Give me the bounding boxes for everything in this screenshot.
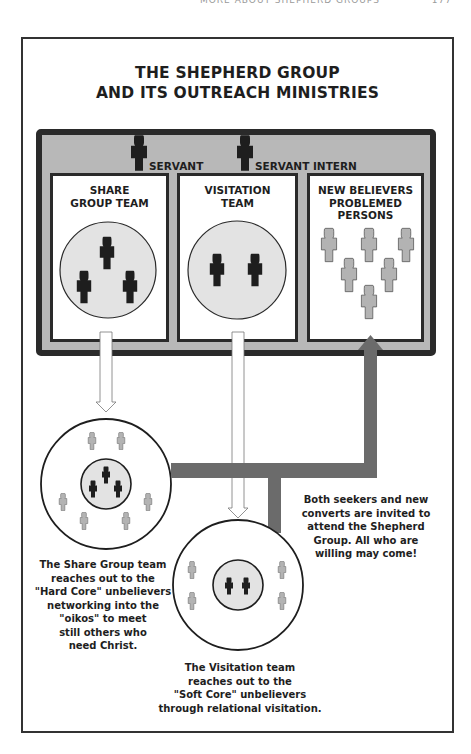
caption-line: "Hard Core" unbelievers bbox=[28, 585, 178, 599]
caption-line: need Christ. bbox=[28, 639, 178, 653]
caption-line: still others who bbox=[28, 626, 178, 640]
caption-line: The Share Group team bbox=[28, 558, 178, 572]
servant-icon bbox=[131, 135, 147, 171]
share-group-outreach-arrow bbox=[96, 332, 116, 412]
caption-line: attend the Shepherd bbox=[296, 520, 436, 534]
hard-core-outreach-circle bbox=[41, 419, 171, 549]
caption-line: The Visitation team bbox=[150, 661, 330, 675]
caption-line: reaches out to the bbox=[28, 572, 178, 586]
share-group-team-circle bbox=[60, 222, 156, 318]
servant-intern-icon bbox=[237, 135, 253, 171]
caption-line: networking into the bbox=[28, 599, 178, 613]
caption-line: willing may come! bbox=[296, 547, 436, 561]
soft-core-outreach-circle bbox=[173, 520, 303, 650]
visitation-caption: The Visitation team reaches out to the "… bbox=[150, 661, 330, 715]
new-believer-icons bbox=[321, 228, 413, 318]
caption-line: converts are invited to bbox=[296, 507, 436, 521]
caption-line: "oikos" to meet bbox=[28, 612, 178, 626]
share-group-caption: The Share Group team reaches out to the … bbox=[28, 558, 178, 653]
caption-line: through relational visitation. bbox=[150, 702, 330, 716]
caption-line: Group. All who are bbox=[296, 534, 436, 548]
caption-line: reaches out to the bbox=[150, 675, 330, 689]
invitation-note: Both seekers and new converts are invite… bbox=[296, 493, 436, 561]
caption-line: Both seekers and new bbox=[296, 493, 436, 507]
visitation-outreach-arrow bbox=[228, 332, 248, 518]
caption-line: "Soft Core" unbelievers bbox=[150, 688, 330, 702]
visitation-team-circle bbox=[188, 221, 286, 319]
